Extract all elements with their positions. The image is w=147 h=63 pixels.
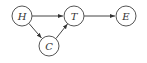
edge-c-to-t <box>56 24 68 39</box>
graph-diagram: H T C E <box>0 0 147 63</box>
node-h: H <box>12 6 32 26</box>
node-t: T <box>64 6 84 26</box>
node-e-label: E <box>121 11 130 22</box>
node-h-label: H <box>17 11 27 22</box>
node-c-label: C <box>45 41 53 52</box>
node-c: C <box>39 36 59 56</box>
node-e: E <box>116 6 136 26</box>
edge-h-to-c <box>29 24 42 39</box>
